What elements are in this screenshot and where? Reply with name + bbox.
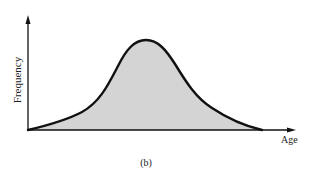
distribution-plot	[0, 0, 311, 176]
x-axis-arrow-icon	[287, 128, 296, 133]
y-axis-label: Frequency	[11, 57, 23, 103]
figure-caption: (b)	[140, 157, 152, 168]
x-axis-label: Age	[281, 134, 298, 145]
y-axis-arrow-icon	[26, 15, 31, 24]
age-frequency-figure: Frequency Age (b)	[0, 0, 311, 176]
